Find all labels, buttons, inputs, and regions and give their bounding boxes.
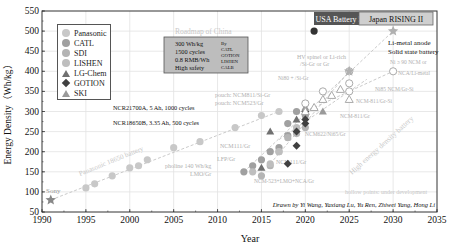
lfp-label: LFP/Gr	[217, 156, 235, 162]
ncm111-gr-label-1: NCM111/Gr	[220, 143, 250, 149]
y-tick-label: 300	[25, 107, 40, 117]
circle-marker-icon	[62, 39, 70, 47]
legend: Panasonic CATL SDI LISHEN LG-Chem GOTION…	[57, 24, 111, 100]
open-triangle-marker-icon	[336, 85, 344, 92]
ncm811-si-label: NCM-811/Gr-Si	[356, 98, 393, 104]
circle-marker-icon	[258, 172, 265, 179]
pholine-label: pholine 140 Wh/kg	[165, 163, 211, 169]
roadmap-line-1: 300 Wh/kg	[175, 40, 204, 47]
high-energy-label: High energy density battery	[347, 114, 415, 177]
roadmap-by-3: GOTION	[221, 53, 240, 58]
roadmap-by-5: CALB	[221, 65, 234, 70]
ncm622-label: NCM622/Ni65/Gr	[305, 131, 346, 137]
circle-marker-icon	[170, 144, 177, 151]
circle-marker-icon	[82, 184, 89, 191]
legend-label: GOTION	[74, 79, 105, 88]
x-axis-ticks: 1990199520002005201020152020202520302035	[33, 209, 447, 225]
open-triangle-marker-icon	[345, 95, 353, 102]
circle-marker-icon	[284, 120, 291, 127]
roadmap-line-3: 0.8 RMB/Wh	[175, 56, 210, 63]
x-tick-label: 2020	[296, 215, 315, 225]
x-tick-label: 1995	[76, 215, 95, 225]
lmo-label: LMO/Gr	[190, 171, 211, 177]
circle-marker-icon	[144, 156, 151, 163]
pouch-ncm523-label: pouch: NCM523/Gr	[215, 100, 264, 106]
circle-marker-icon	[62, 49, 70, 57]
y-tick-label: 500	[25, 26, 40, 36]
open-circle-marker-icon	[390, 68, 397, 75]
circle-marker-icon	[258, 112, 265, 119]
circle-marker-icon	[196, 138, 203, 145]
y-tick-label: 400	[25, 66, 40, 76]
triangle-marker-icon	[62, 70, 70, 77]
circle-marker-icon	[293, 108, 300, 115]
ncr18650-label: NCR18650B, 3.35 Ah, 500 cycles	[113, 119, 199, 126]
x-tick-label: 2005	[164, 215, 183, 225]
circle-marker-icon	[284, 134, 291, 141]
y-axis-title: Energy Density（Wh/kg）	[2, 59, 13, 164]
star-marker-icon	[46, 194, 57, 204]
triangle-marker-icon	[257, 164, 265, 171]
roadmap-by-2: CATL	[221, 47, 233, 52]
legend-label: CATL	[74, 39, 94, 48]
roadmap-by-1: By	[221, 41, 227, 46]
open-circle-marker-icon	[346, 88, 353, 95]
legend-item-lishen: LISHEN	[62, 58, 102, 68]
pouch-ncm811-label: pouch: NCM811/Si-Gr	[215, 92, 270, 98]
legend-label: SDI	[74, 49, 87, 58]
circle-marker-icon	[275, 108, 282, 115]
circle-marker-icon	[258, 156, 265, 163]
x-tick-label: 2030	[384, 215, 403, 225]
y-tick-label: 50	[30, 207, 40, 217]
y-tick-label: 200	[25, 147, 40, 157]
sony-label: Sony	[46, 187, 61, 195]
circle-marker-icon	[267, 160, 274, 167]
ni90-label-2: NCA/Li-metal	[398, 70, 431, 76]
limetal-label: Li-metal anode	[388, 39, 431, 47]
circle-marker-icon	[249, 168, 256, 175]
diamond-marker-icon	[293, 142, 301, 150]
hv-spinel-label-2: /Si-Gr or Gr	[300, 61, 329, 67]
legend-item-panasonic: Panasonic	[62, 28, 106, 38]
triangle-marker-icon	[62, 90, 70, 97]
ncm811-label: NCM-811/Gr	[340, 113, 370, 119]
legend-item-lgchem: LG-Chem	[62, 68, 106, 78]
ni90-label-1: Ni ≥ 90 NCM or	[390, 59, 427, 65]
roadmap-title: Roadmap of China	[175, 27, 232, 36]
circle-marker-icon	[232, 124, 239, 131]
japan-rising-label: Japan RISING II	[369, 15, 424, 24]
y-tick-label: 550	[25, 6, 40, 16]
y-tick-label: 450	[25, 46, 40, 56]
legend-label: LISHEN	[74, 59, 102, 68]
x-tick-label: 2000	[120, 215, 139, 225]
open-triangle-marker-icon	[310, 103, 318, 110]
legend-item-catl: CATL	[62, 38, 94, 48]
hollow-points-label: hollow points: under development	[345, 189, 427, 195]
legend-item-gotion: GOTION	[62, 78, 105, 88]
x-tick-label: 2010	[208, 215, 227, 225]
circle-marker-icon	[62, 59, 70, 67]
circle-marker-icon	[135, 162, 142, 169]
circle-marker-icon	[62, 29, 70, 37]
y-tick-label: 350	[25, 86, 40, 96]
legend-label: Panasonic	[74, 29, 106, 38]
legend-item-sdi: SDI	[62, 48, 87, 58]
hv-spinel-label-1: HV spinel or Li-rich	[297, 54, 346, 60]
circle-marker-icon	[240, 168, 247, 175]
legend-label: LG-Chem	[74, 69, 106, 78]
diamond-marker-icon	[62, 79, 70, 87]
ncr21700-label: NCR21700A, 5 Ah, 1000 cycles	[113, 104, 195, 111]
y-tick-label: 100	[25, 187, 40, 197]
circle-marker-icon	[109, 172, 116, 179]
x-tick-label: 2015	[252, 215, 271, 225]
circle-marker-icon	[91, 180, 98, 187]
open-circle-marker-icon	[319, 88, 326, 95]
circle-marker-icon	[267, 148, 274, 155]
roadmap-line-2: 1500 cycles	[175, 48, 205, 55]
open-circle-marker-icon	[346, 80, 353, 87]
circle-marker-icon	[311, 28, 318, 35]
legend-item-ski: SKI	[62, 88, 87, 98]
x-tick-label: 2035	[428, 215, 447, 225]
y-tick-label: 250	[25, 127, 40, 137]
ni85-label: Ni85 NCM/Gr-Si	[375, 86, 414, 92]
